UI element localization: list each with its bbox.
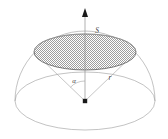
axis-arrowhead-icon: [82, 8, 88, 17]
geometry-diagram: S α r: [0, 0, 168, 139]
label-half-angle: α: [72, 77, 76, 85]
label-cap-area: S: [95, 26, 99, 35]
label-radius: r: [109, 73, 112, 82]
figure-container: S α r: [0, 0, 168, 139]
center-point-marker: [83, 99, 87, 103]
center-square-icon: [83, 99, 87, 103]
